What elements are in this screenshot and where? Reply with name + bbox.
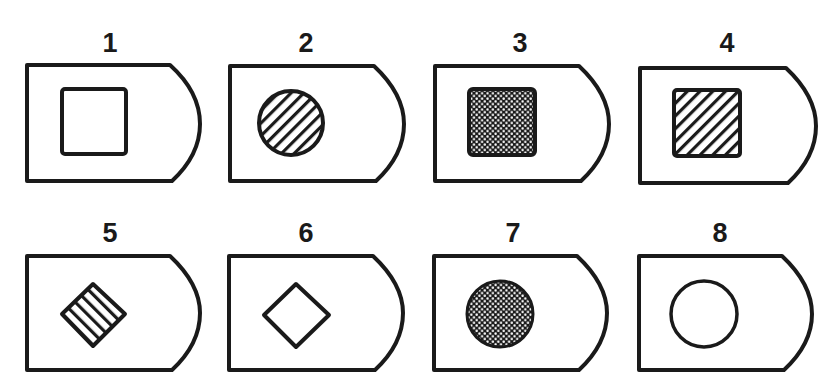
circle-outline-icon: [671, 281, 737, 347]
diamond-outline-icon: [264, 284, 329, 347]
card-label: 7: [505, 218, 520, 248]
card-label: 1: [102, 28, 117, 58]
card-6: 6: [229, 218, 403, 370]
card-label: 3: [512, 28, 527, 58]
square-outline-icon: [62, 89, 126, 154]
circle-dotted-icon: [467, 281, 533, 347]
square-dotted-icon: [469, 89, 535, 155]
card-outline: [229, 256, 403, 370]
square-hatched-icon: [674, 90, 740, 156]
card-3: 3: [435, 28, 609, 181]
card-8: 8: [639, 218, 812, 370]
card-outline: [639, 256, 812, 370]
card-label: 2: [298, 28, 313, 58]
card-1: 1: [27, 28, 200, 181]
card-label: 8: [712, 218, 727, 248]
card-outline: [27, 65, 200, 181]
card-label: 5: [102, 218, 117, 248]
card-2: 2: [230, 28, 404, 181]
card-5: 5: [27, 218, 200, 370]
circle-hatched-icon: [259, 91, 323, 155]
card-7: 7: [434, 218, 607, 370]
card-figure: 1 2 3 4 5 6 7 8: [0, 0, 840, 387]
card-label: 6: [298, 218, 313, 248]
card-4: 4: [640, 28, 816, 183]
card-label: 4: [719, 28, 734, 58]
diamond-hatched-icon: [62, 284, 125, 346]
